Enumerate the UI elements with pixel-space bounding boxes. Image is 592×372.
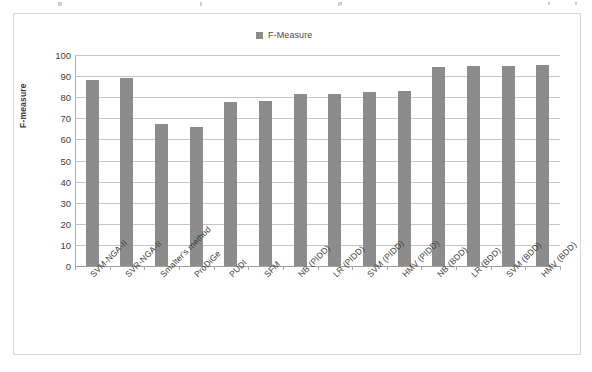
y-tick-label-70: 70 — [47, 113, 71, 124]
bar — [502, 66, 515, 266]
x-tick-mark — [179, 266, 180, 270]
scan-artifact-marks — [0, 0, 592, 12]
y-axis-title: F-measure — [18, 83, 28, 128]
x-tick-mark — [421, 266, 422, 270]
plot-area — [75, 55, 560, 266]
bar — [467, 66, 480, 266]
x-tick-mark — [456, 266, 457, 270]
y-axis-tick-labels: 0102030405060708090100 — [45, 55, 71, 266]
legend-swatch-f-measure — [256, 32, 263, 39]
bar — [328, 94, 341, 266]
y-tick-label-90: 90 — [47, 71, 71, 82]
y-tick-label-0: 0 — [47, 261, 71, 272]
y-tick-label-100: 100 — [47, 50, 71, 61]
y-tick-label-40: 40 — [47, 176, 71, 187]
bar — [536, 65, 549, 266]
y-tick-label-30: 30 — [47, 197, 71, 208]
bar — [86, 80, 99, 266]
x-tick-mark — [560, 266, 561, 270]
y-tick-label-50: 50 — [47, 155, 71, 166]
x-tick-mark — [283, 266, 284, 270]
x-tick-mark — [491, 266, 492, 270]
x-tick-mark — [75, 266, 76, 270]
bar — [294, 94, 307, 266]
x-axis-category-labels: SVM-NGA-IISVR-NGA-IISmalter's methodProD… — [75, 272, 575, 352]
x-tick-mark — [248, 266, 249, 270]
bar — [363, 92, 376, 266]
x-tick-mark — [214, 266, 215, 270]
legend-label-f-measure: F-Measure — [268, 30, 312, 40]
chart-legend: F-Measure — [256, 30, 312, 40]
x-tick-mark — [525, 266, 526, 270]
x-tick-mark — [110, 266, 111, 270]
bar — [259, 101, 272, 266]
x-tick-mark — [144, 266, 145, 270]
x-tick-mark — [387, 266, 388, 270]
y-tick-label-20: 20 — [47, 218, 71, 229]
x-tick-mark — [318, 266, 319, 270]
bar-series-f-measure — [75, 55, 560, 266]
y-tick-label-60: 60 — [47, 134, 71, 145]
y-tick-label-10: 10 — [47, 239, 71, 250]
bar — [224, 102, 237, 266]
x-tick-mark — [352, 266, 353, 270]
y-tick-label-80: 80 — [47, 92, 71, 103]
bar — [432, 67, 445, 266]
